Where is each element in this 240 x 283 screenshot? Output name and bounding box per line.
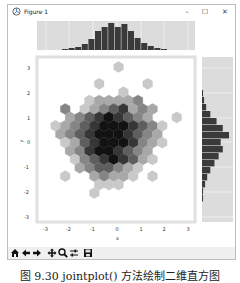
top-histogram-bar — [121, 24, 127, 50]
arrow-right-icon[interactable] — [32, 248, 42, 258]
top-histogram-bar — [82, 44, 88, 50]
top-histogram-bar — [135, 38, 141, 50]
y-tick-label: -2 — [24, 189, 29, 195]
top-histogram-bar — [148, 46, 154, 50]
x-tick-label: 3 — [187, 226, 190, 232]
top-histogram-bar — [161, 49, 167, 50]
right-histogram-bar — [202, 174, 207, 180]
y-tick-label: 2 — [27, 90, 30, 96]
right-histogram-bar — [202, 153, 219, 159]
y-tick-label: -3 — [24, 214, 29, 220]
right-histogram-bar — [202, 90, 203, 96]
home-icon[interactable] — [10, 248, 20, 258]
x-tick-label: -2 — [66, 226, 71, 232]
top-histogram-bar — [115, 27, 121, 50]
right-histogram-bar — [202, 195, 203, 201]
x-tick-label: 0 — [116, 226, 119, 232]
y-axis-label: y — [18, 140, 24, 143]
top-histogram-bar — [69, 48, 75, 50]
top-histogram-bar — [95, 31, 101, 50]
top-histogram-bar — [75, 47, 81, 50]
top-histogram-bar — [141, 43, 147, 50]
top-histogram-bar — [128, 31, 134, 50]
x-tick-label: 2 — [163, 226, 166, 232]
x-tick-label: -1 — [90, 226, 95, 232]
y-tick-label: -1 — [24, 164, 29, 170]
arrow-left-icon[interactable] — [21, 248, 31, 258]
right-histogram-bar — [202, 125, 223, 131]
figure-caption: 图 9.30 jointplot() 方法绘制二维直方图 — [0, 267, 240, 283]
right-histogram-bar — [202, 97, 204, 103]
right-histogram-bar — [202, 104, 206, 110]
top-histogram-bar — [88, 39, 94, 50]
right-histogram-bar — [202, 111, 210, 117]
x-tick-label: 1 — [140, 226, 143, 232]
joint-plot[interactable] — [0, 0, 240, 245]
right-histogram-bar — [202, 181, 205, 187]
navigation-toolbar — [8, 247, 235, 259]
sliders-icon[interactable] — [69, 248, 79, 258]
y-tick-label: 0 — [27, 139, 30, 145]
top-histogram-bar — [154, 48, 160, 50]
top-histogram-bar — [102, 27, 108, 50]
floppy-icon[interactable] — [83, 248, 93, 258]
x-axis-label: x — [116, 235, 119, 241]
magnifier-icon[interactable] — [58, 248, 68, 258]
right-histogram-bar — [202, 146, 223, 152]
y-tick-label: 3 — [27, 65, 30, 71]
y-tick-label: 1 — [27, 115, 30, 121]
right-histogram-bar — [202, 118, 217, 124]
top-histogram-bar — [108, 23, 114, 50]
move-icon[interactable] — [47, 248, 57, 258]
right-histogram-bar — [202, 167, 210, 173]
right-histogram-bar — [202, 188, 203, 194]
right-histogram-bar — [202, 132, 229, 138]
right-histogram-bar — [202, 160, 214, 166]
right-histogram-bar — [202, 139, 221, 145]
x-tick-label: -3 — [43, 226, 48, 232]
top-histogram-bar — [62, 49, 68, 50]
